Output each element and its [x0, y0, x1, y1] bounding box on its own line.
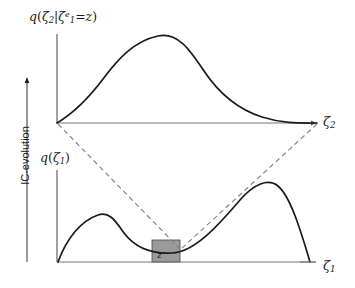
top-label-var1: ζ [42, 9, 49, 24]
zeta2-var: ζ [323, 114, 330, 129]
z-band-label: z [157, 251, 162, 260]
ic-evolution-label: IC-evolution [20, 106, 31, 206]
zeta2-sub: 2 [330, 120, 336, 130]
top-label-equals: = [75, 9, 85, 24]
zeta1-var: ζ [323, 258, 330, 273]
conditional-density-panel [57, 34, 317, 123]
top-label-fn: q [29, 9, 37, 24]
marginal-density-curve [58, 182, 310, 262]
bottom-panel-y-axis-label: q(ζ1) [40, 152, 70, 166]
bottom-panel-x-axis-label: ζ1 [323, 259, 336, 274]
top-panel-y-axis-label: q(ζ2|ζe1=z) [29, 11, 97, 25]
right-projection-line [181, 124, 317, 249]
figure-canvas [0, 0, 355, 288]
conditional-density-curve [57, 35, 317, 123]
bottom-label-close: ) [65, 150, 70, 165]
bottom-label-var1: ζ [53, 150, 60, 165]
figure-container: q(ζ2|ζe1=z) q(ζ1) ζ2 ζ1 IC-evolution z [0, 0, 355, 288]
top-panel-x-axis-label: ζ2 [323, 115, 336, 130]
bottom-label-fn: q [40, 150, 48, 165]
zeta1-sub: 1 [330, 264, 336, 274]
top-label-close: ) [92, 9, 97, 24]
marginal-density-panel [57, 170, 316, 262]
